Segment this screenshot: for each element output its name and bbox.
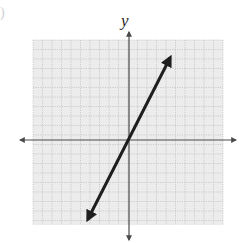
grid-background <box>33 40 223 225</box>
coordinate-plane <box>0 0 240 243</box>
y-axis-label: y <box>121 12 129 29</box>
